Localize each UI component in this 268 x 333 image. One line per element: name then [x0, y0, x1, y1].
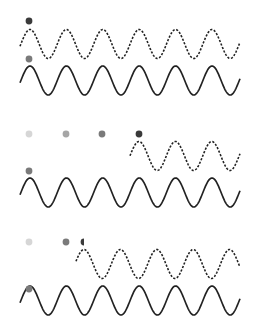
- phase-marker-dot: [63, 131, 70, 138]
- phase-marker-dot: [26, 168, 33, 175]
- dashed-wave: [20, 30, 240, 59]
- phase-marker-dot: [26, 239, 33, 246]
- solid-wave: [20, 178, 240, 207]
- phase-marker-dot: [99, 131, 106, 138]
- phase-marker-dot: [26, 131, 33, 138]
- phase-wave-diagram: [0, 0, 268, 333]
- solid-wave: [20, 66, 240, 95]
- dashed-wave: [76, 250, 240, 279]
- phase-marker-dot: [63, 239, 70, 246]
- phase-marker-dot: [136, 131, 143, 138]
- panel-2: [20, 131, 240, 207]
- panel-3: [20, 239, 240, 315]
- phase-marker-dot: [26, 18, 33, 25]
- dashed-wave: [130, 142, 240, 171]
- phase-marker-dot: [26, 286, 33, 293]
- panel-1: [20, 18, 240, 95]
- solid-wave: [20, 286, 240, 315]
- phase-marker-dot: [81, 239, 84, 246]
- phase-marker-dot: [26, 56, 33, 63]
